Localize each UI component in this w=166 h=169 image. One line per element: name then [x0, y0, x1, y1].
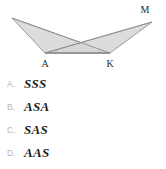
option-d-letter: D.: [7, 148, 24, 158]
option-b-text: ASA: [24, 99, 49, 115]
answer-options-list: A. SSS B. ASA C. SAS D. AAS: [0, 72, 166, 169]
option-c[interactable]: C. SAS: [0, 118, 166, 141]
option-d[interactable]: D. AAS: [0, 141, 166, 164]
geometry-figure: A K M: [0, 0, 166, 72]
option-d-text: AAS: [24, 145, 49, 161]
option-b[interactable]: B. ASA: [0, 95, 166, 118]
option-c-letter: C.: [7, 125, 24, 135]
vertex-label-K: K: [106, 58, 114, 69]
option-b-letter: B.: [7, 102, 24, 112]
question-figure-page: A K M A. SSS B. ASA C. SAS D. AAS: [0, 0, 166, 169]
vertex-label-A: A: [41, 58, 49, 69]
option-a-text: SSS: [24, 76, 47, 92]
option-c-text: SAS: [24, 122, 48, 138]
vertex-label-M: M: [141, 4, 150, 15]
option-a-letter: A.: [7, 79, 24, 89]
option-a[interactable]: A. SSS: [0, 72, 166, 95]
geometry-figure-svg: A K M: [0, 0, 166, 72]
